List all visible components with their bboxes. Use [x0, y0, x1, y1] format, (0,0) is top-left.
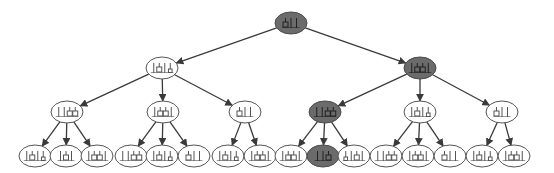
tree-node-n15: [212, 145, 244, 167]
node-ellipse: [50, 145, 82, 167]
tree-node-n17: [275, 145, 307, 167]
edge-arrow: [42, 122, 60, 146]
edge-arrow: [162, 123, 163, 145]
edge-arrow: [74, 122, 90, 146]
edge-arrow: [305, 28, 405, 63]
tree-node-n12: [115, 145, 147, 167]
edge-arrow: [249, 123, 257, 146]
tree-node-n5: [229, 101, 261, 123]
tree-node-n14: [178, 145, 210, 167]
tree-node-n16: [244, 145, 276, 167]
edge-arrow: [338, 74, 406, 106]
edge-arrow: [505, 123, 511, 145]
tree-node-n18-highlighted: [307, 145, 339, 167]
edge-arrow: [175, 75, 233, 106]
edge-arrow: [394, 122, 413, 147]
tree-node-n8: [486, 101, 518, 123]
edge-arrow: [176, 28, 276, 63]
tree-node-n2-highlighted: [404, 57, 436, 79]
tree-node-n0-highlighted: [275, 12, 307, 34]
tree-node-n7: [404, 101, 436, 123]
edge-arrow: [323, 123, 324, 145]
edge-arrow: [433, 75, 490, 105]
tree-diagram: Search tree of block-stacking states: [0, 0, 554, 173]
tree-node-n9: [19, 145, 51, 167]
tree-node-n20: [370, 145, 402, 167]
tree-node-n11: [81, 145, 113, 167]
edge-arrow: [162, 79, 163, 101]
tree-node-n24: [498, 145, 530, 167]
edges-group: [42, 28, 511, 146]
tree-node-n1: [146, 57, 178, 79]
edge-arrow: [418, 123, 419, 145]
edge-arrow: [66, 123, 67, 145]
edge-arrow: [427, 122, 443, 146]
nodes-group: [19, 12, 530, 167]
tree-canvas: [0, 0, 554, 173]
edge-arrow: [170, 122, 187, 146]
tree-node-n19: [338, 145, 370, 167]
edge-arrow: [332, 122, 348, 146]
tree-node-n10: [50, 145, 82, 167]
tree-node-n4: [147, 101, 179, 123]
edge-arrow: [487, 122, 497, 145]
tree-node-n3: [51, 101, 83, 123]
edge-arrow: [232, 123, 241, 146]
edge-arrow: [299, 122, 318, 147]
tree-node-n22: [434, 145, 466, 167]
tree-node-n21: [402, 145, 434, 167]
tree-node-n13: [146, 145, 178, 167]
tree-node-n6-highlighted: [309, 101, 341, 123]
edge-arrow: [80, 74, 148, 106]
edge-arrow: [138, 122, 156, 146]
tree-node-n23: [466, 145, 498, 167]
